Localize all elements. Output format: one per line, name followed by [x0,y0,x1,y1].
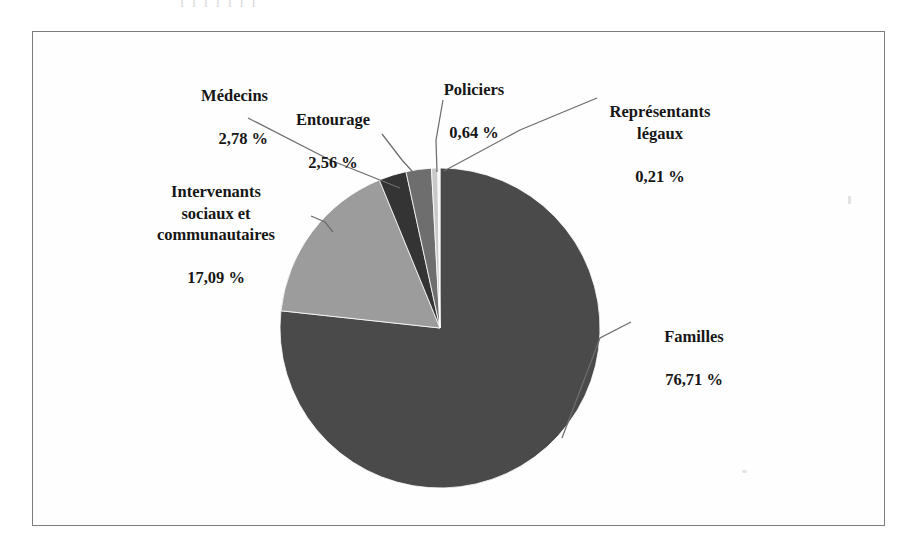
pie-label-medecins: Médecins 2,78 % [118,64,268,171]
pie-slice-group [280,168,600,488]
pie-label-policiers-value: 0,64 % [400,122,548,143]
pie-label-policiers-name: Policiers [400,79,548,100]
pie-label-intervenants-name: Intervenants sociaux et communautaires [120,181,312,245]
scan-speck [742,470,747,473]
pie-label-intervenants: Intervenants sociaux et communautaires 1… [120,160,312,310]
pie-label-intervenants-value: 17,09 % [120,267,312,288]
pie-label-entourage-name: Entourage [258,109,408,130]
pie-label-familles-name: Familles [614,326,774,347]
pie-label-representants-legaux-value: 0,21 % [560,166,760,187]
pie-label-familles-value: 76,71 % [614,369,774,390]
pie-label-representants-legaux-name: Représentants légaux [560,101,760,144]
pie-label-familles: Familles 76,71 % [614,305,774,412]
scan-speck [848,196,851,204]
pie-label-medecins-value: 2,78 % [118,128,268,149]
pie-label-medecins-name: Médecins [118,85,268,106]
pie-label-policiers: Policiers 0,64 % [400,58,548,165]
pie-label-representants-legaux: Représentants légaux 0,21 % [560,80,760,209]
